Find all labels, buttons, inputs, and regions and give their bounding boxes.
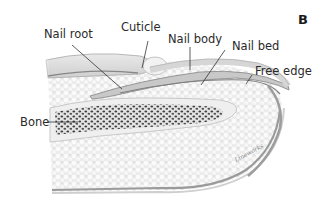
label-nail-root: Nail root (44, 27, 93, 41)
label-cuticle: Cuticle (121, 20, 161, 34)
panel-letter: B (298, 12, 308, 27)
label-nail-body: Nail body (168, 32, 222, 46)
label-free-edge: Free edge (255, 64, 312, 78)
label-nail-bed: Nail bed (232, 39, 279, 53)
nail-anatomy-diagram: Lineworks Nail root Cuticle Nail body Na… (0, 0, 322, 214)
label-bone: Bone (20, 115, 49, 129)
